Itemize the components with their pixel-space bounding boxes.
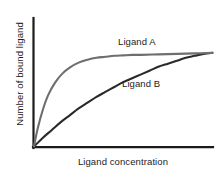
binding-curve-figure: Number of bound ligand Ligand concentrat…: [0, 0, 220, 172]
y-axis-label: Number of bound ligand: [14, 9, 28, 139]
x-axis-label: Ligand concentration: [33, 156, 213, 167]
series-label-ligand-a: Ligand A: [118, 36, 156, 47]
plot-area: [0, 0, 220, 172]
series-label-ligand-b: Ligand B: [122, 78, 160, 89]
curve-ligand-a: [34, 53, 213, 147]
curve-ligand-b: [34, 53, 213, 147]
